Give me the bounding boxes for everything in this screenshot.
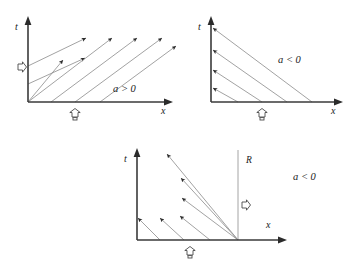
characteristic-lines-a xyxy=(28,38,176,102)
characteristic-lines-c xyxy=(138,154,238,240)
x-axis-label-b: x xyxy=(330,105,336,116)
inflow-marker-bottom-b xyxy=(257,109,267,121)
boundary-label-R: R xyxy=(245,155,252,165)
t-axis-label-a: t xyxy=(15,21,18,32)
characteristic-lines-b xyxy=(213,28,312,102)
axes-c xyxy=(134,148,287,243)
condition-label-b: a < 0 xyxy=(278,54,302,65)
t-axis-arrowhead-c xyxy=(134,148,141,157)
axes-a xyxy=(25,16,173,105)
inflow-marker-left-a xyxy=(18,62,27,72)
t-axis-arrowhead-a xyxy=(25,16,32,25)
condition-label-a: a > 0 xyxy=(113,83,137,94)
t-axis-arrowhead-b xyxy=(208,16,215,25)
x-axis-arrowhead-c xyxy=(278,237,287,244)
inflow-marker-bottom-a xyxy=(70,109,80,121)
t-axis-label-c: t xyxy=(124,153,127,164)
inflow-marker-right-c xyxy=(242,200,251,210)
figure-root: t x a > 0 xyxy=(0,0,352,263)
x-axis-label-a: x xyxy=(160,105,166,116)
panel-a-positive: t x a > 0 xyxy=(0,0,176,136)
inflow-marker-bottom-c xyxy=(185,247,195,259)
panel-c-negative-boundary: t x R a < 0 xyxy=(80,136,352,263)
panel-b-negative: t x a < 0 xyxy=(176,0,352,136)
t-axis-label-b: t xyxy=(198,21,201,32)
condition-label-c: a < 0 xyxy=(293,171,317,182)
x-axis-label-c: x xyxy=(265,219,271,230)
